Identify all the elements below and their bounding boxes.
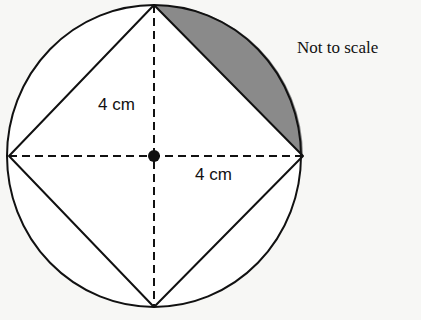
not-to-scale-note: Not to scale — [297, 38, 378, 58]
horizontal-radius-label: 4 cm — [195, 165, 232, 184]
vertical-radius-label: 4 cm — [98, 95, 135, 114]
center-point — [148, 150, 160, 162]
